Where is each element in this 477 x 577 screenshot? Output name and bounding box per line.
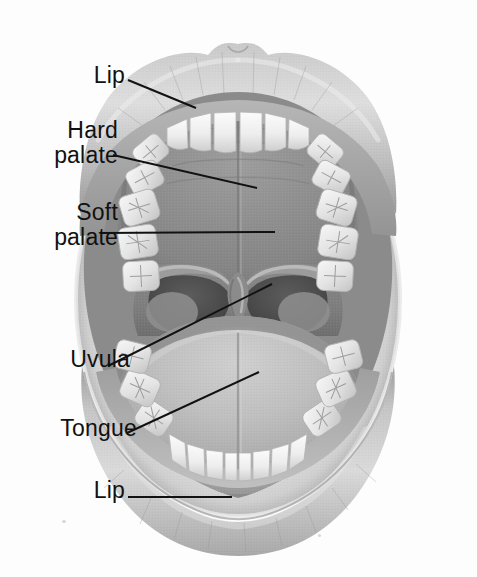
tooth-lower-lateral-right [253, 450, 270, 480]
tooth-lower-central-right [239, 453, 251, 481]
label-soft-palate: Softpalate [0, 200, 118, 249]
tooth-upper-lateral-left [190, 113, 211, 151]
label-soft-palate-line1: Soft [76, 199, 118, 225]
tooth-lower-central-left [225, 453, 237, 481]
label-hard-palate-line1: Hard [67, 117, 118, 143]
anatomy-figure: Lip Hardpalate Softpalate Uvula Tongue L… [0, 0, 477, 577]
tooth-upper-central-right [240, 112, 262, 153]
label-uvula: Uvula [0, 347, 130, 372]
scan-speck-2 [318, 534, 321, 537]
leader-soft-palate [100, 232, 275, 233]
label-hard-palate-line2: palate [54, 142, 118, 168]
label-lip-top: Lip [10, 63, 125, 88]
scan-speck-3 [372, 118, 375, 120]
tooth-upper-central-left [214, 112, 236, 153]
label-soft-palate-line2: palate [54, 224, 118, 250]
tooth-upper-lateral-right [265, 113, 286, 151]
label-lip-bottom: Lip [10, 478, 125, 503]
label-hard-palate: Hardpalate [0, 118, 118, 167]
tooth-lower-lateral-left [206, 450, 223, 480]
scan-speck-1 [62, 520, 66, 523]
label-tongue: Tongue [0, 416, 137, 441]
